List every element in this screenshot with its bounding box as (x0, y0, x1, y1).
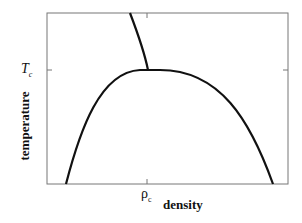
rhoc-label: ρc (141, 186, 152, 204)
y-axis-label: temperature (17, 86, 33, 166)
tc-label: Tc (21, 61, 32, 79)
x-axis-label: density (163, 197, 203, 213)
upper-phase-line (130, 13, 148, 70)
plot-frame (47, 13, 288, 184)
coexistence-curve (66, 70, 273, 184)
